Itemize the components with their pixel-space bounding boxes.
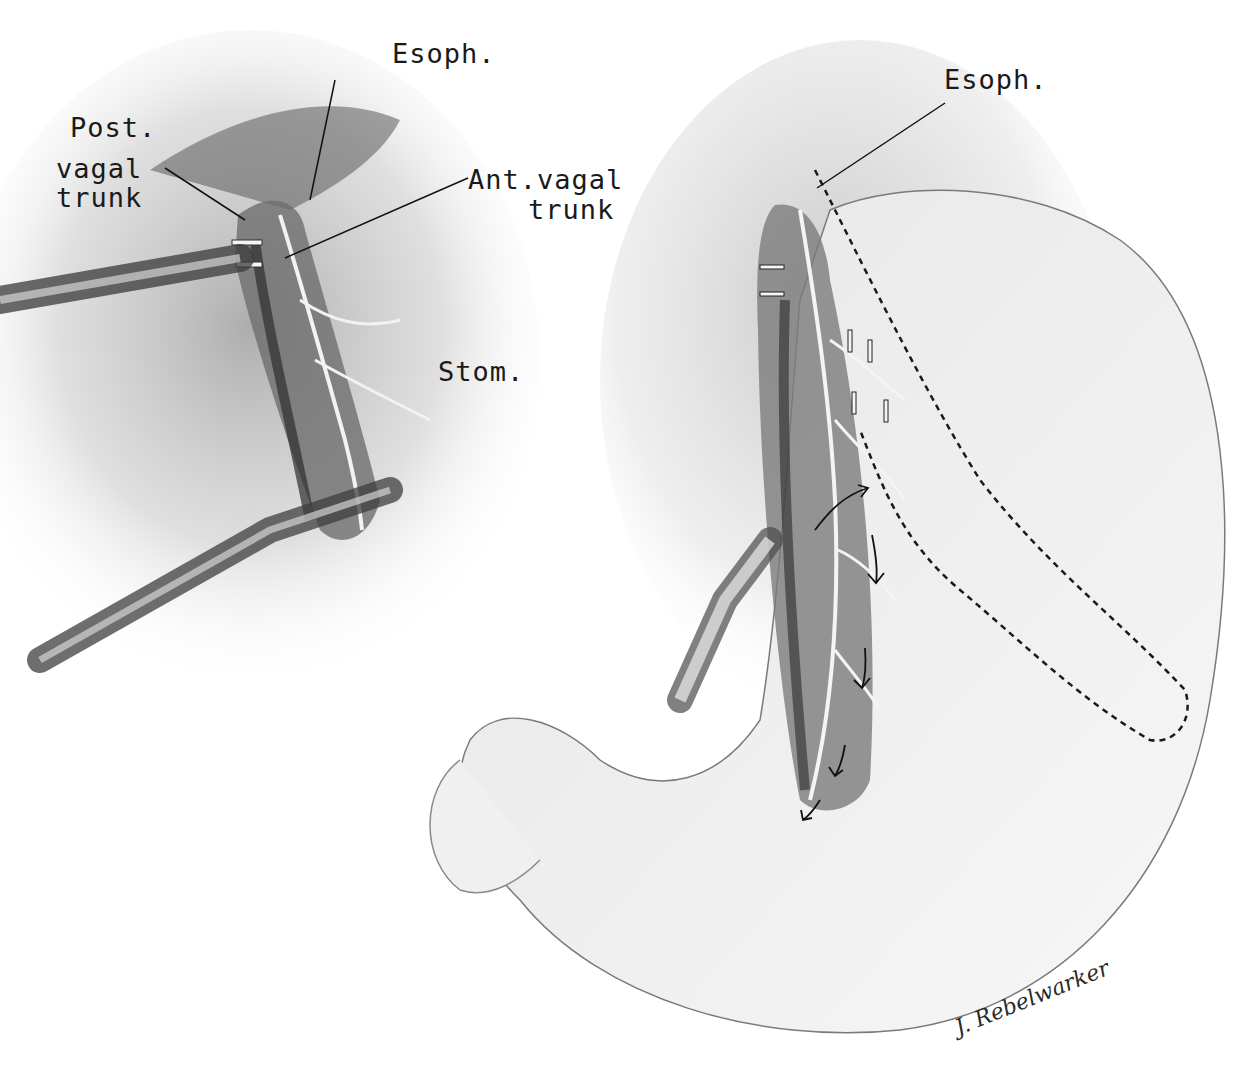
illustration-drawing xyxy=(0,0,1252,1070)
label-stomach: Stom. xyxy=(438,358,524,386)
label-ant-vagal-line1: Ant.vagal xyxy=(468,166,623,194)
label-post-vagal-line3: trunk xyxy=(56,184,142,212)
label-esoph-left: Esoph. xyxy=(392,40,496,68)
label-esoph-right: Esoph. xyxy=(944,66,1048,94)
label-post-vagal-line1: Post. xyxy=(70,114,156,142)
label-post-vagal-line2: vagal xyxy=(56,155,142,183)
label-ant-vagal-line2: trunk xyxy=(528,196,614,224)
surgical-illustration: Esoph. Post. vagal trunk Ant.vagal trunk… xyxy=(0,0,1252,1070)
